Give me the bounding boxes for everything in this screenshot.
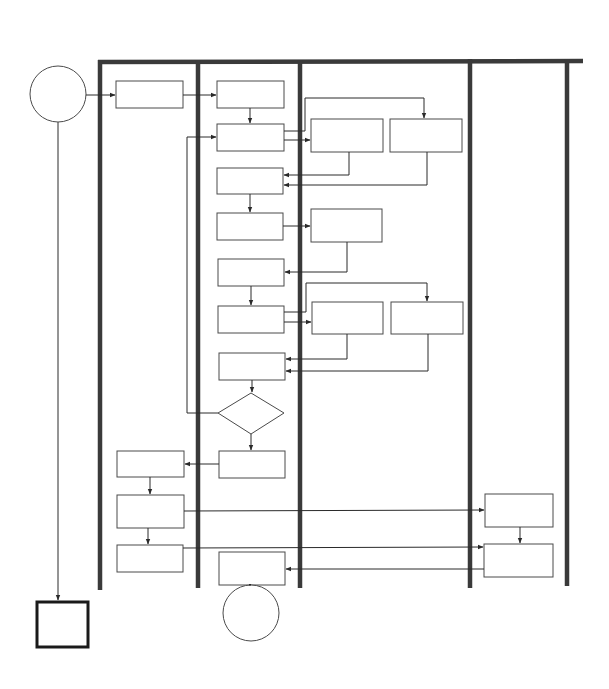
node-produce-soil-report	[117, 545, 183, 572]
node-hydraulic-review	[311, 119, 383, 152]
node-inspect-work	[485, 494, 553, 527]
node-receive-administration	[217, 81, 284, 108]
node-review	[311, 209, 382, 242]
node-log-in-1	[217, 168, 283, 194]
node-call-for-inspection	[117, 495, 184, 528]
node-log-out-1	[217, 213, 283, 240]
end-node-21-days	[37, 602, 88, 647]
node-set-up-file	[217, 124, 284, 151]
node-log-out-2	[218, 306, 284, 333]
node-receive-reports-administration	[219, 552, 285, 585]
node-do-routing	[391, 302, 463, 334]
node-receive-engineering	[117, 451, 184, 477]
end-node-distribute-permit	[223, 585, 279, 641]
node-private-street-review	[312, 302, 383, 334]
node-receive-reports-inspection	[484, 544, 553, 577]
decision-complete	[218, 393, 284, 434]
start-node-apply-for-permit	[30, 66, 86, 122]
node-prepare	[116, 81, 183, 108]
permit-process-swimlane-diagram: I was emitting the same zero-length `` e…	[0, 0, 609, 689]
node-issue-permit	[219, 451, 285, 478]
node-improve-plan-review	[390, 119, 462, 152]
node-log-in-3	[219, 353, 285, 380]
node-log-in-2	[218, 259, 284, 286]
